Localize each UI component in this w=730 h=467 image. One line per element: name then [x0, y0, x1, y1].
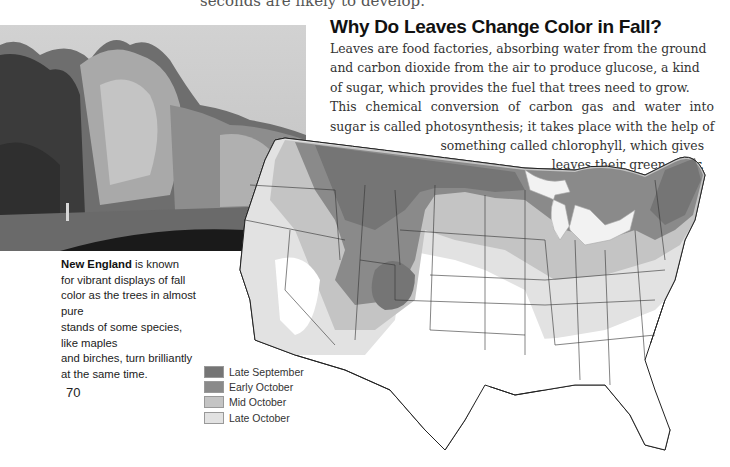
legend-label: Mid October [229, 396, 286, 408]
legend-label: Late October [229, 412, 290, 424]
page-number: 70 [66, 385, 80, 400]
caption-bold: New England [61, 258, 132, 270]
legend-swatch [204, 381, 224, 393]
caption-line: is known [132, 258, 179, 270]
legend-item-mid-october: Mid October [204, 395, 304, 410]
body-line: of sugar, which provides the fuel that t… [330, 78, 704, 97]
article-title: Why Do Leaves Change Color in Fall? [330, 16, 662, 38]
caption-line: and birches, turn brilliantly [61, 352, 192, 364]
legend-item-early-october: Early October [204, 379, 304, 394]
legend-label: Late September [229, 366, 304, 378]
caption-line: stands of some species, like maples [61, 321, 182, 349]
caption-line: for vibrant displays of fall [61, 274, 185, 286]
legend-item-late-september: Late September [204, 364, 304, 379]
legend-swatch [204, 412, 224, 424]
legend-item-late-october: Late October [204, 410, 304, 425]
map-legend: Late September Early October Mid October… [204, 364, 304, 426]
cutoff-previous-text: seconds are likely to develop. [200, 0, 425, 10]
legend-label: Early October [229, 381, 293, 393]
caption-line: at the same time. [61, 368, 148, 380]
body-line: and carbon dioxide from the air to produ… [330, 58, 704, 77]
body-line: This chemical conversion of carbon gas a… [330, 97, 704, 116]
legend-swatch [204, 366, 224, 378]
caption-line: color as the trees in almost pure [61, 289, 196, 317]
legend-swatch [204, 396, 224, 408]
body-line: Leaves are food factories, absorbing wat… [330, 39, 704, 58]
new-england-caption: New England is known for vibrant display… [61, 257, 201, 383]
